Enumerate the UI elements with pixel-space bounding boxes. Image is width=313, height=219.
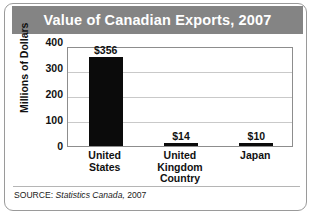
source-prefix: SOURCE: xyxy=(14,190,53,200)
x-tick-label-japan: Japan xyxy=(218,150,293,162)
x-tick-label-united-kingdom: United Kingdom xyxy=(142,150,217,173)
source-note: SOURCE: Statistics Canada, 2007 xyxy=(14,190,146,201)
y-tick-label: 0 xyxy=(27,141,63,151)
y-tick-label: 100 xyxy=(27,115,63,125)
x-tick-label-line: United xyxy=(142,150,217,162)
x-tick-label-line: States xyxy=(67,162,142,174)
source-year: 2007 xyxy=(127,190,146,200)
y-tick-label: 400 xyxy=(27,37,63,47)
chart-figure: Value of Canadian Exports, 2007 Millions… xyxy=(4,3,307,211)
bar-united-states xyxy=(89,57,123,146)
bar-value-label: $14 xyxy=(151,131,211,142)
source-divider xyxy=(13,186,300,187)
source-publisher: Statistics Canada, xyxy=(56,190,125,200)
bar-japan xyxy=(239,143,273,146)
bar-united-kingdom xyxy=(164,143,198,147)
y-tick-label: 200 xyxy=(27,89,63,99)
x-axis-title: Country xyxy=(67,173,293,185)
bar-value-label: $356 xyxy=(76,45,136,56)
chart-plot-region: Millions of Dollars 400 300 200 100 0 $3… xyxy=(5,4,307,211)
x-tick-label-line: United xyxy=(67,150,142,162)
x-tick-label-united-states: United States xyxy=(67,150,142,173)
y-axis-tick-labels: 400 300 200 100 0 xyxy=(27,42,63,146)
y-tick-label: 300 xyxy=(27,63,63,73)
x-tick-label-line: Japan xyxy=(218,150,293,162)
plot-area: $356 $14 $10 xyxy=(67,47,293,147)
bar-value-label: $10 xyxy=(226,131,286,142)
